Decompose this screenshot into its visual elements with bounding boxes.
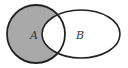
venn-diagram: A B [0,0,128,68]
venn-svg: A B [0,0,128,68]
set-a-label: A [29,29,38,42]
set-b-label: B [75,29,84,42]
